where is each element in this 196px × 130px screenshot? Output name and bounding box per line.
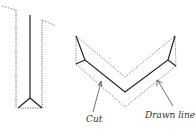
right-top-dotted-tail <box>42 20 56 26</box>
drawn-line-label: Drawn line <box>144 110 195 120</box>
straight-cut-figure <box>2 6 56 108</box>
right-end-cut-branch <box>168 60 176 66</box>
left-top-dotted-tail <box>2 6 16 10</box>
cut-label: Cut <box>86 114 103 124</box>
v-cut-line <box>76 36 175 92</box>
v-cut-figure: Cut Drawn line <box>76 36 195 124</box>
left-end-cut-branch <box>76 60 85 64</box>
cut-arrow-line <box>93 82 101 112</box>
inner-drawn-line <box>76 36 175 77</box>
cut-diagram: Cut Drawn line <box>0 0 196 130</box>
right-end-drawn-line <box>175 36 176 66</box>
cut-right-branch <box>30 98 42 108</box>
drawn-line-arrow-line <box>158 81 173 106</box>
cut-left-branch <box>18 98 30 108</box>
